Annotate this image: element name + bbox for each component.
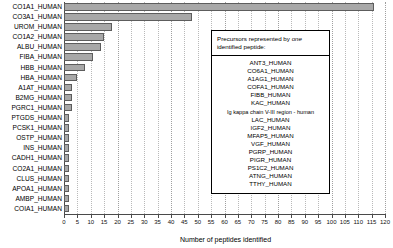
bar	[64, 43, 101, 51]
x-axis-title: Number of peptides identified	[0, 236, 393, 243]
y-tick-label: FIBA_HUMAN	[0, 53, 62, 60]
bar	[64, 175, 69, 183]
x-tick	[64, 214, 65, 218]
y-tick-label: PGRC1_HUMAN	[0, 104, 62, 111]
annotation-item: IGF2_HUMAN	[215, 124, 326, 132]
bar	[64, 33, 104, 41]
y-tick-label: CO2A1_HUMAN	[0, 165, 62, 172]
x-tick	[345, 214, 346, 218]
x-tick-label: 120	[380, 219, 390, 226]
bar	[64, 53, 93, 61]
x-tick-label: 70	[248, 219, 255, 226]
bar	[64, 114, 69, 122]
x-tick-label: 10	[87, 219, 94, 226]
annotation-item-list: ANT3_HUMANCO6A1_HUMANA1AG1_HUMANCOFA1_HU…	[212, 56, 329, 193]
x-tick	[318, 214, 319, 218]
gridline	[385, 2, 386, 214]
x-tick	[251, 214, 252, 218]
bar	[64, 13, 192, 21]
y-tick-label: CADH1_HUMAN	[0, 154, 62, 161]
bar	[64, 64, 85, 72]
x-axis-title-text: Number of peptides identified	[122, 236, 271, 243]
y-tick-label: CO1A2_HUMAN	[0, 33, 62, 40]
annotation-item: ANT3_HUMAN	[215, 59, 326, 67]
x-tick	[372, 214, 373, 218]
bar-row	[64, 12, 385, 22]
annotation-item: KAC_HUMAN	[215, 99, 326, 107]
x-tick	[184, 214, 185, 218]
bar-row	[64, 2, 385, 12]
annotation-box: Precursors represented by one identified…	[211, 30, 330, 194]
y-tick-label: CLUS_HUMAN	[0, 175, 62, 182]
x-tick	[358, 214, 359, 218]
y-tick-label: HBA_HUMAN	[0, 74, 62, 81]
annotation-heading: Precursors represented by one identified…	[212, 31, 329, 56]
y-tick-label: CO1A1_HUMAN	[0, 3, 62, 10]
y-tick-label: AMBP_HUMAN	[0, 195, 62, 202]
x-tick	[278, 214, 279, 218]
y-tick-label: INS_HUMAN	[0, 144, 62, 151]
bar	[64, 144, 69, 152]
x-tick-label: 40	[168, 219, 175, 226]
y-tick-label: HBB_HUMAN	[0, 64, 62, 71]
chart-figure: 0510152025303540455055606570758085909510…	[0, 0, 393, 248]
bar	[64, 154, 69, 162]
x-tick-label: 60	[221, 219, 228, 226]
annotation-item: PGRP_HUMAN	[215, 148, 326, 156]
x-tick-label: 25	[128, 219, 135, 226]
annotation-item: ATNG_HUMAN	[215, 172, 326, 180]
x-tick-label: 35	[154, 219, 161, 226]
x-tick-label: 65	[235, 219, 242, 226]
y-tick-label: PCSK1_HUMAN	[0, 124, 62, 131]
bar-row	[64, 194, 385, 204]
annotation-heading-part2: identified peptide:	[217, 43, 266, 50]
x-tick	[198, 214, 199, 218]
annotation-item: LAC_HUMAN	[215, 116, 326, 124]
bar-row	[64, 204, 385, 214]
annotation-item: VGF_HUMAN	[215, 140, 326, 148]
x-tick	[91, 214, 92, 218]
y-tick-label: PTGDS_HUMAN	[0, 114, 62, 121]
bar	[64, 104, 72, 112]
x-tick-label: 80	[275, 219, 282, 226]
x-tick	[131, 214, 132, 218]
y-tick-label: OSTP_HUMAN	[0, 134, 62, 141]
y-tick-label: APOA1_HUMAN	[0, 185, 62, 192]
x-tick-label: 30	[141, 219, 148, 226]
x-tick-label: 90	[301, 219, 308, 226]
y-tick-label: A1AT_HUMAN	[0, 84, 62, 91]
x-tick	[291, 214, 292, 218]
annotation-heading-part1: Precursors represented by	[217, 35, 292, 42]
x-tick-label: 95	[315, 219, 322, 226]
annotation-item: PS1C2_HUMAN	[215, 164, 326, 172]
bar	[64, 195, 69, 203]
x-tick	[104, 214, 105, 218]
bar	[64, 84, 72, 92]
bar	[64, 165, 69, 173]
x-tick	[332, 214, 333, 218]
x-tick-label: 115	[367, 219, 377, 226]
x-tick-label: 0	[62, 219, 65, 226]
x-tick-label: 75	[261, 219, 268, 226]
x-tick	[118, 214, 119, 218]
annotation-item: Ig kappa chain V-III region - human	[215, 108, 326, 116]
y-tick-label: B2MG_HUMAN	[0, 94, 62, 101]
x-tick-label: 85	[288, 219, 295, 226]
annotation-item: COFA1_HUMAN	[215, 83, 326, 91]
x-tick	[158, 214, 159, 218]
y-tick-label: ALBU_HUMAN	[0, 43, 62, 50]
x-tick	[211, 214, 212, 218]
bar	[64, 23, 112, 31]
annotation-item: A1AG1_HUMAN	[215, 75, 326, 83]
bar	[64, 124, 69, 132]
y-tick-label: COIA1_HUMAN	[0, 205, 62, 212]
bar	[64, 134, 69, 142]
annotation-item: TTHY_HUMAN	[215, 180, 326, 188]
x-tick	[265, 214, 266, 218]
bar	[64, 94, 72, 102]
bar	[64, 185, 69, 193]
x-tick	[305, 214, 306, 218]
x-tick-label: 15	[101, 219, 108, 226]
x-tick-label: 5	[76, 219, 79, 226]
x-tick	[144, 214, 145, 218]
